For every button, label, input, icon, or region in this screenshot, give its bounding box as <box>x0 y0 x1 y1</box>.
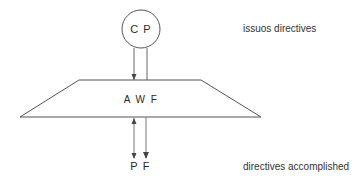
awf-to-pf-connectors <box>132 117 150 159</box>
arrowhead-down-icon <box>132 74 137 80</box>
p-label: P <box>130 160 137 172</box>
cp-label: C P <box>130 23 151 35</box>
arrowhead-up-icon <box>132 118 137 124</box>
cp-node: C P <box>122 10 160 48</box>
arrowhead-down-icon <box>143 152 149 159</box>
process-diagram: C P A W F P F issuos directives directiv… <box>0 0 361 182</box>
arrowhead-down-icon <box>132 153 137 159</box>
cp-to-awf-connectors <box>132 48 148 80</box>
top-annotation: issuos directives <box>243 23 316 34</box>
awf-label: A W F <box>124 94 159 105</box>
awf-node: A W F <box>20 80 261 117</box>
f-label: F <box>143 160 150 172</box>
bottom-annotation: directives accomplished <box>243 161 349 172</box>
